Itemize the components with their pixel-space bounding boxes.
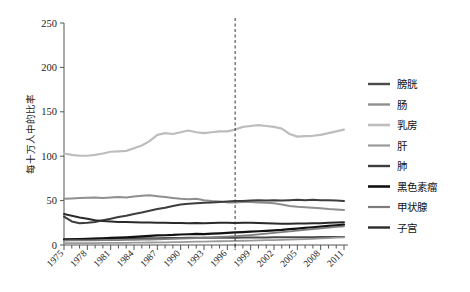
y-tick-label: 50 (47, 195, 58, 206)
x-tick-label: 1993 (185, 248, 206, 269)
x-tick-label: 2008 (302, 248, 323, 269)
legend-label: 肺 (397, 160, 408, 172)
legend-item-7[interactable]: 子宫 (368, 222, 417, 234)
legend-label: 乳房 (397, 119, 417, 131)
legend-label: 肝 (397, 140, 408, 152)
x-tick-label: 1975 (45, 248, 66, 269)
legend-item-3[interactable]: 肝 (368, 140, 408, 152)
y-tick-label: 250 (41, 18, 57, 29)
legend-item-5[interactable]: 黑色素瘤 (368, 181, 438, 193)
legend-label: 甲状腺 (397, 201, 428, 213)
legend-item-0[interactable]: 膀胱 (368, 78, 418, 90)
y-tick-label: 0 (52, 240, 57, 251)
legend-label: 子宫 (397, 222, 417, 234)
legend-label: 膀胱 (397, 78, 418, 90)
x-tick-label: 2002 (255, 248, 276, 269)
series-layer (64, 125, 344, 243)
series-line-2 (64, 125, 344, 156)
x-tick-label: 1990 (162, 248, 183, 269)
x-tick-label: 1999 (232, 248, 253, 269)
legend-label: 黑色素瘤 (397, 181, 438, 193)
x-tick-label: 1987 (138, 248, 159, 269)
legend-item-6[interactable]: 甲状腺 (368, 201, 428, 213)
x-tick-label: 1984 (115, 248, 136, 269)
chart-container: 0501001502002501975197819811984198719901… (0, 0, 470, 292)
x-tick-label: 2005 (278, 248, 299, 269)
x-tick-label: 1981 (92, 248, 113, 269)
legend-item-2[interactable]: 乳房 (368, 119, 417, 131)
x-tick-label: 1978 (68, 248, 89, 269)
x-tick-label: 2011 (325, 248, 345, 268)
y-axis-title: 每十万人中的比率 (25, 94, 36, 174)
x-tick-label: 1996 (208, 248, 229, 269)
y-tick-label: 150 (41, 106, 57, 117)
series-line-4 (64, 200, 344, 224)
y-tick-label: 100 (41, 151, 57, 162)
legend-item-1[interactable]: 肠 (368, 99, 407, 111)
y-tick-label: 200 (41, 62, 57, 73)
line-chart: 0501001502002501975197819811984198719901… (0, 0, 470, 292)
legend-label: 肠 (397, 99, 407, 111)
legend-layer: 膀胱肠乳房肝肺黑色素瘤甲状腺子宫 (368, 78, 438, 234)
legend-item-4[interactable]: 肺 (368, 160, 408, 172)
